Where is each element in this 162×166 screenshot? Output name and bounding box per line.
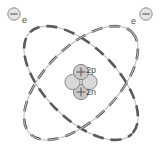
- orbit-path-dashed-b: [5, 7, 158, 160]
- electron-left: [8, 8, 20, 20]
- electron-left-label: e: [22, 16, 27, 25]
- electron-orbit-primary-b: [5, 7, 158, 160]
- orbit-path-thin-b: [5, 7, 158, 160]
- proton-count-label: 2p: [86, 66, 96, 75]
- electron-right-label: e: [131, 17, 136, 26]
- electron-orbit-secondary-b: [5, 7, 158, 160]
- neutron-count-label: 2n: [86, 88, 96, 97]
- orbit-path-dashed-a: [5, 7, 158, 160]
- electron-orbit-primary: [5, 7, 158, 160]
- orbit-path-thin: [5, 7, 158, 160]
- helium-atom-diagram: e e 2p 2n: [0, 0, 162, 166]
- electron-orbit-secondary: [5, 7, 158, 160]
- electron-right: [140, 8, 152, 20]
